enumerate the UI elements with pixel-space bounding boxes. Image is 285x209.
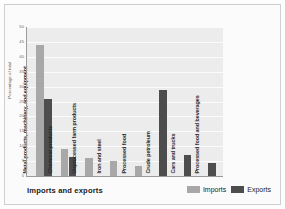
category-label: Chemical products (48, 126, 54, 174)
bar-imports (61, 149, 69, 176)
category-label: Processed food and beverages (196, 96, 202, 174)
y-tick-label-25: 25 (6, 100, 24, 104)
y-tick-label-45: 45 (6, 40, 24, 44)
y-tick-label-40: 40 (6, 55, 24, 59)
plot-area: Metal products, machinery, and equipment… (26, 27, 223, 176)
y-tick-label-5: 5 (6, 159, 24, 163)
chart-figure: Percentage of total 50454035302520151050… (0, 0, 285, 209)
bar-exports (208, 163, 216, 176)
y-tick-label-0: 0 (6, 174, 24, 178)
bar-imports (36, 45, 44, 176)
y-tick-label-35: 35 (6, 70, 24, 74)
y-tick-label-30: 30 (6, 85, 24, 89)
bar-group: Processed food and beverages (198, 27, 223, 176)
category-label: Processed food (122, 134, 128, 174)
legend-swatch-imports (187, 186, 200, 193)
y-tick-label-15: 15 (6, 129, 24, 133)
legend-item-exports[interactable]: Exports (231, 186, 271, 193)
legend: Imports Exports (187, 186, 271, 193)
y-tick-label-50: 50 (6, 25, 24, 29)
y-tick-label-10: 10 (6, 144, 24, 148)
legend-label-exports: Exports (247, 186, 271, 193)
bar-exports (184, 155, 192, 176)
chart-title: Imports and exports (27, 186, 103, 195)
x-axis-baseline (26, 176, 223, 177)
legend-swatch-exports (231, 186, 244, 193)
bar-imports (85, 158, 93, 176)
bar-exports (159, 90, 167, 176)
legend-item-imports[interactable]: Imports (187, 186, 226, 193)
y-axis-tick-labels: 50454035302520151050 (2, 27, 24, 177)
category-label: Crude petroleum (147, 132, 153, 174)
bar-imports (110, 161, 118, 176)
category-label: Cars and trucks (171, 134, 177, 174)
category-label: Unprocessed farm products (73, 103, 79, 174)
bar-imports (135, 166, 143, 176)
legend-label-imports: Imports (203, 186, 226, 193)
category-label: Iron and steel (97, 140, 103, 174)
y-axis-line (26, 27, 27, 177)
y-tick-label-20: 20 (6, 114, 24, 118)
